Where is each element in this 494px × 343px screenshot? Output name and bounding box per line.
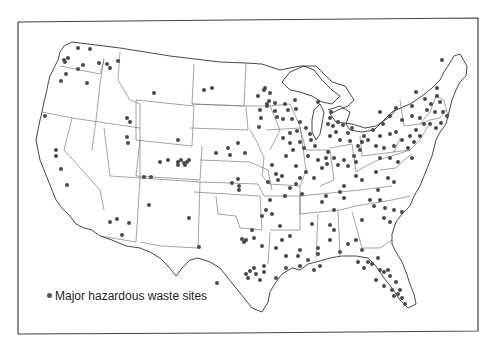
map-legend: Major hazardous waste sites <box>47 289 207 303</box>
lake-michigan <box>312 104 324 140</box>
state-boundaries <box>42 52 448 264</box>
legend-dot-icon <box>47 293 52 298</box>
lake-superior <box>282 66 340 104</box>
legend-label: Major hazardous waste sites <box>55 289 207 303</box>
hazardous-waste-sites <box>43 46 449 306</box>
